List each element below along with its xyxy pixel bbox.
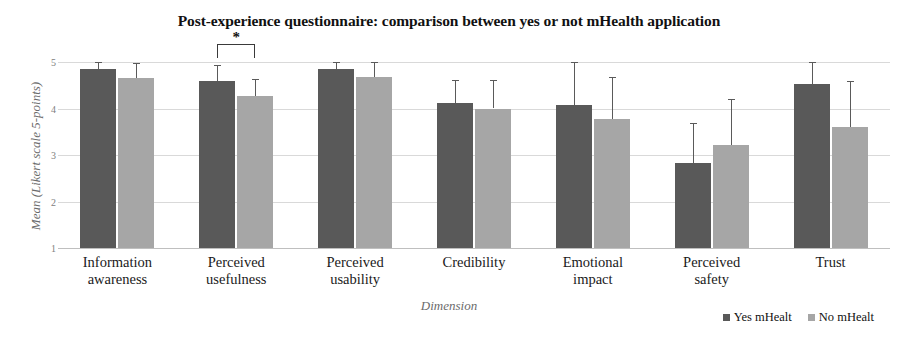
category-label-line: usefulness bbox=[177, 271, 296, 288]
error-bar-cap bbox=[133, 63, 140, 64]
error-bar bbox=[850, 81, 851, 128]
category-label-line: Emotional bbox=[533, 254, 652, 271]
error-bar-cap bbox=[95, 62, 102, 63]
category-label-line: Perceived bbox=[296, 254, 415, 271]
legend-label: No mHealt bbox=[819, 310, 874, 325]
significance-bracket bbox=[217, 44, 255, 58]
error-bar bbox=[812, 62, 813, 84]
y-axis-tick-labels: 12345 bbox=[40, 62, 56, 248]
error-bar bbox=[374, 62, 375, 77]
bar-perceived-usability-yes-mhealt bbox=[318, 69, 354, 248]
bar-perceived-usefulness-no-mhealt bbox=[237, 96, 273, 248]
category-label-emotional-impact: Emotionalimpact bbox=[533, 254, 652, 287]
y-tick-label-4: 4 bbox=[40, 103, 56, 114]
bar-emotional-impact-no-mhealt bbox=[594, 119, 630, 248]
error-bar bbox=[693, 123, 694, 163]
gridline-1 bbox=[58, 248, 890, 249]
category-label-line: Credibility bbox=[415, 254, 534, 271]
category-label-line: Trust bbox=[771, 254, 890, 271]
bracket-left-arm bbox=[217, 44, 218, 58]
bar-trust-no-mhealt bbox=[832, 127, 868, 248]
category-label-perceived-usability: Perceivedusability bbox=[296, 254, 415, 287]
error-bar bbox=[612, 77, 613, 118]
y-tick-label-2: 2 bbox=[40, 196, 56, 207]
legend-item-yes-mhealt[interactable]: Yes mHealt bbox=[723, 310, 792, 325]
error-bar-cap bbox=[490, 80, 497, 81]
error-bar-cap bbox=[609, 77, 616, 78]
error-bar bbox=[136, 63, 137, 78]
legend-label: Yes mHealt bbox=[734, 310, 792, 325]
bar-perceived-usefulness-yes-mhealt bbox=[199, 81, 235, 248]
bar-credibility-yes-mhealt bbox=[437, 103, 473, 248]
legend-swatch-icon bbox=[808, 314, 815, 321]
error-bar-cap bbox=[847, 81, 854, 82]
category-label-perceived-safety: Perceivedsafety bbox=[652, 254, 771, 287]
bar-perceived-safety-yes-mhealt bbox=[675, 163, 711, 248]
chart-figure: Post-experience questionnaire: compariso… bbox=[0, 0, 898, 346]
bar-information-awareness-no-mhealt bbox=[118, 78, 154, 248]
chart-title: Post-experience questionnaire: compariso… bbox=[0, 12, 898, 30]
error-bar-cap bbox=[452, 80, 459, 81]
category-label-line: usability bbox=[296, 271, 415, 288]
error-bar-cap bbox=[214, 65, 221, 66]
category-label-line: safety bbox=[652, 271, 771, 288]
category-label-line: impact bbox=[533, 271, 652, 288]
error-bar-cap bbox=[252, 79, 259, 80]
error-bar bbox=[574, 62, 575, 105]
error-bar-cap bbox=[333, 62, 340, 63]
bars-layer bbox=[58, 62, 890, 248]
category-label-line: awareness bbox=[58, 271, 177, 288]
category-label-information-awareness: Informationawareness bbox=[58, 254, 177, 287]
category-label-line: Perceived bbox=[652, 254, 771, 271]
category-label-line: Perceived bbox=[177, 254, 296, 271]
bar-perceived-usability-no-mhealt bbox=[356, 77, 392, 248]
category-label-perceived-usefulness: Perceivedusefulness bbox=[177, 254, 296, 287]
legend-item-no-mhealt[interactable]: No mHealt bbox=[808, 310, 874, 325]
x-axis-category-labels: InformationawarenessPerceivedusefulnessP… bbox=[58, 254, 890, 296]
bracket-top-line bbox=[217, 44, 255, 45]
error-bar bbox=[493, 80, 494, 109]
error-bar-cap bbox=[371, 62, 378, 63]
error-bar bbox=[455, 80, 456, 103]
bar-emotional-impact-yes-mhealt bbox=[556, 105, 592, 248]
error-bar-cap bbox=[809, 62, 816, 63]
error-bar bbox=[731, 99, 732, 145]
legend-swatch-icon bbox=[723, 314, 730, 321]
bar-information-awareness-yes-mhealt bbox=[80, 69, 116, 248]
category-label-line: Information bbox=[58, 254, 177, 271]
significance-star-label: * bbox=[217, 30, 255, 44]
error-bar-cap bbox=[728, 99, 735, 100]
bar-credibility-no-mhealt bbox=[475, 109, 511, 249]
bar-perceived-safety-no-mhealt bbox=[713, 145, 749, 248]
error-bar bbox=[217, 65, 218, 80]
y-tick-label-5: 5 bbox=[40, 57, 56, 68]
chart-legend: Yes mHealtNo mHealt bbox=[723, 310, 874, 325]
bracket-right-arm bbox=[254, 44, 255, 58]
category-label-trust: Trust bbox=[771, 254, 890, 271]
error-bar-cap bbox=[690, 123, 697, 124]
y-tick-label-3: 3 bbox=[40, 150, 56, 161]
error-bar bbox=[255, 79, 256, 96]
category-label-credibility: Credibility bbox=[415, 254, 534, 271]
error-bar bbox=[336, 62, 337, 69]
bar-trust-yes-mhealt bbox=[794, 84, 830, 248]
error-bar-cap bbox=[571, 62, 578, 63]
y-tick-label-1: 1 bbox=[40, 243, 56, 254]
